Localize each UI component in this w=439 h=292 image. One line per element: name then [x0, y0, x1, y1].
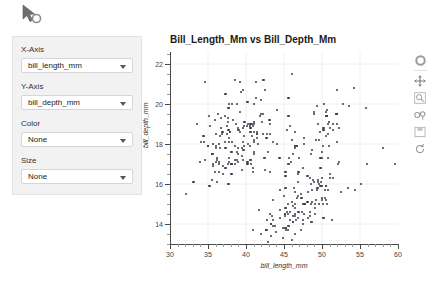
- data-point: [217, 113, 219, 115]
- data-point: [266, 219, 268, 221]
- data-point: [242, 141, 244, 143]
- reset-icon[interactable]: [412, 140, 428, 157]
- data-point: [234, 145, 236, 147]
- color-select[interactable]: None: [21, 132, 133, 147]
- plot-frame[interactable]: [170, 52, 398, 244]
- data-point: [246, 101, 248, 103]
- data-point: [338, 161, 340, 163]
- data-point: [224, 147, 226, 149]
- data-point: [294, 233, 296, 235]
- data-point: [317, 123, 319, 125]
- data-point: [315, 139, 317, 141]
- data-point: [260, 233, 262, 235]
- data-point: [253, 141, 255, 143]
- y-tick-label: 22: [148, 61, 163, 68]
- bokeh-logo-icon[interactable]: [412, 52, 428, 69]
- data-point: [316, 105, 318, 107]
- data-point: [209, 125, 211, 127]
- data-point: [318, 203, 320, 205]
- data-point: [239, 131, 241, 133]
- data-point: [284, 207, 286, 209]
- data-point: [230, 163, 232, 165]
- data-point: [228, 157, 230, 159]
- wheel-zoom-icon[interactable]: [412, 106, 428, 123]
- data-point: [347, 187, 349, 189]
- data-point: [332, 123, 334, 125]
- data-point: [246, 125, 248, 127]
- data-point: [284, 175, 286, 177]
- data-point: [327, 157, 329, 159]
- data-point: [300, 197, 302, 199]
- data-point: [303, 143, 305, 145]
- data-point: [242, 159, 244, 161]
- data-point: [255, 81, 257, 83]
- data-point: [275, 231, 277, 233]
- data-point: [215, 133, 217, 135]
- color-label: Color: [21, 119, 133, 129]
- data-point: [278, 157, 280, 159]
- data-point: [311, 189, 313, 191]
- data-point: [262, 133, 264, 135]
- data-point: [287, 97, 289, 99]
- data-point: [394, 163, 396, 165]
- data-point: [212, 165, 214, 167]
- data-point: [207, 145, 209, 147]
- x-axis-label: X-Axis: [21, 45, 133, 55]
- data-point: [218, 163, 220, 165]
- data-point: [202, 135, 204, 137]
- save-icon[interactable]: [412, 123, 428, 140]
- y-tick-label: 14: [148, 221, 163, 228]
- data-point: [251, 135, 253, 137]
- data-point: [287, 213, 289, 215]
- data-point: [287, 203, 289, 205]
- data-point: [226, 125, 228, 127]
- data-point: [212, 163, 214, 165]
- data-point: [237, 161, 239, 163]
- data-point: [253, 103, 255, 105]
- data-point: [274, 225, 276, 227]
- data-point: [262, 113, 264, 115]
- data-point: [326, 203, 328, 205]
- data-point: [337, 163, 339, 165]
- data-point: [326, 109, 328, 111]
- bokeh-toolbar: [411, 52, 429, 157]
- data-point: [297, 181, 299, 183]
- x-axis-select[interactable]: bill_length_mm: [21, 58, 133, 73]
- data-point: [241, 169, 243, 171]
- pan-tool-icon[interactable]: [412, 72, 428, 89]
- data-point: [243, 121, 245, 123]
- data-point: [286, 129, 288, 131]
- data-point: [310, 221, 312, 223]
- data-point: [249, 127, 251, 129]
- data-point: [253, 153, 255, 155]
- data-point: [290, 161, 292, 163]
- data-points: [170, 52, 398, 244]
- data-point: [211, 179, 213, 181]
- data-point: [272, 141, 274, 143]
- data-point: [329, 177, 331, 179]
- x-tick-label: 45: [280, 251, 288, 258]
- data-point: [250, 163, 252, 165]
- data-point: [246, 163, 248, 165]
- data-point: [227, 163, 229, 165]
- y-axis-label: Y-Axis: [21, 82, 133, 92]
- data-point: [331, 219, 333, 221]
- data-point: [257, 143, 259, 145]
- data-point: [204, 81, 206, 83]
- data-point: [252, 125, 254, 127]
- data-point: [261, 121, 263, 123]
- data-point: [242, 89, 244, 91]
- data-point: [224, 93, 226, 95]
- data-point: [288, 225, 290, 227]
- box-zoom-icon[interactable]: [412, 89, 428, 106]
- size-select-value: None: [22, 172, 47, 181]
- x-axis-title: bill_length_mm: [260, 262, 307, 269]
- size-select[interactable]: None: [21, 169, 133, 184]
- data-point: [328, 145, 330, 147]
- x-tick-label: 55: [356, 251, 364, 258]
- data-point: [315, 199, 317, 201]
- data-point: [321, 199, 323, 201]
- y-axis-select[interactable]: bill_depth_mm: [21, 95, 133, 110]
- x-tick-label: 60: [394, 251, 402, 258]
- data-point: [310, 203, 312, 205]
